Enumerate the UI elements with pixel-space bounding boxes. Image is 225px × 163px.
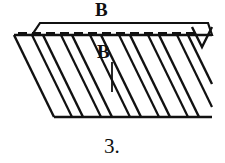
dimension-label-b-top: B — [95, 0, 108, 19]
figure-container: B B 3. — [0, 0, 225, 163]
figure-caption: 3. — [104, 136, 120, 157]
dimension-label-b-inner: B — [97, 42, 110, 61]
